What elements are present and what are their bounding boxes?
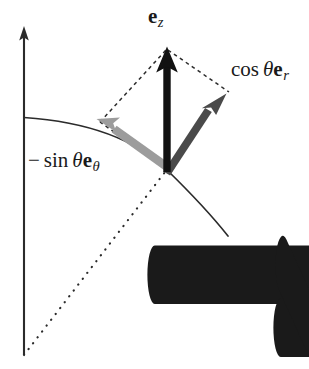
label-cos-e-subscript: r	[283, 68, 289, 83]
construction-edge-theta-tip-to-ez-tip	[100, 50, 166, 122]
figure-canvas	[0, 0, 309, 369]
vector-e-z	[156, 47, 178, 173]
vector-decomposition-figure: ez cosθer −sinθeθ	[0, 0, 309, 369]
label-sin-prefix: sin	[44, 148, 69, 172]
label-e-z-subscript: z	[158, 15, 164, 30]
label-neg-sin-theta-e-theta: −sinθeθ	[28, 150, 100, 174]
vertical-axis	[19, 26, 29, 355]
vector-cos-theta-e-r	[163, 94, 226, 176]
label-sin-angle-symbol: θ	[72, 148, 82, 172]
label-sin-e-base: e	[83, 150, 92, 171]
radial-dotted-line	[24, 163, 172, 355]
label-e-z: ez	[148, 6, 164, 30]
label-cos-theta-e-r: cosθer	[231, 59, 289, 83]
vector-e-z-shaft	[163, 64, 170, 172]
label-e-z-base: e	[148, 6, 157, 27]
label-cos-prefix: cos	[231, 57, 259, 81]
label-sin-e-subscript: θ	[93, 159, 100, 174]
label-cos-angle-symbol: θ	[263, 57, 273, 81]
label-cos-e-base: e	[273, 59, 282, 80]
label-sin-minus-sign: −	[28, 148, 40, 172]
